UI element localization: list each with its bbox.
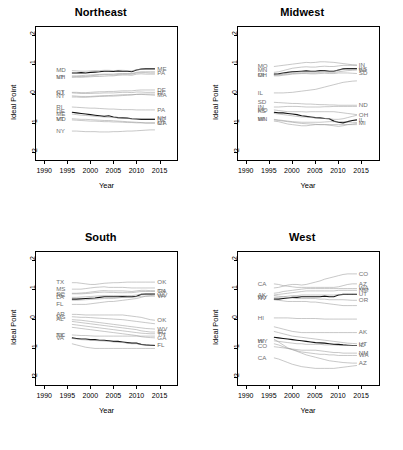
- state-label-left: MN: [258, 116, 268, 122]
- series-line: [273, 110, 356, 115]
- state-label-right: GA: [157, 335, 166, 341]
- series-line: [273, 102, 356, 105]
- series-line: [72, 290, 155, 293]
- state-label-right: PA: [157, 70, 165, 76]
- state-label-left: MO: [258, 107, 268, 113]
- series-line: [273, 81, 356, 93]
- panel-northeast: NortheastIdeal Point210-1-21990199520002…: [0, 0, 202, 225]
- series-line: [72, 287, 155, 289]
- state-label-left: FL: [56, 301, 63, 307]
- series-line: [72, 321, 155, 332]
- state-label-right: OR: [359, 297, 368, 303]
- state-label-right: MA: [157, 120, 166, 126]
- series-line: [72, 282, 155, 284]
- state-label-left: MD: [56, 116, 66, 122]
- series-line: [273, 62, 356, 67]
- state-label-left: NY: [56, 93, 65, 99]
- panel-west: WestIdeal Point210-1-2199019952000200520…: [202, 225, 403, 450]
- state-label-left: MO: [258, 63, 268, 69]
- state-label-left: NV: [258, 295, 267, 301]
- state-label-left: NY: [56, 128, 65, 134]
- state-label-right: CO: [359, 271, 368, 277]
- ideal-point-panel-figure: NortheastIdeal Point210-1-21990199520002…: [0, 0, 403, 450]
- state-label-left: VT: [56, 74, 64, 80]
- state-label-right: OK: [157, 317, 166, 323]
- series-line: [72, 107, 155, 110]
- state-label-left: VA: [56, 335, 64, 341]
- series-lines: [0, 225, 202, 450]
- state-label-left: HI: [258, 315, 264, 321]
- series-lines: [0, 0, 202, 225]
- series-line: [273, 327, 356, 333]
- series-line: [273, 331, 356, 343]
- state-label-left: OH: [258, 72, 267, 78]
- panel-midwest: MidwestIdeal Point210-1-2199019952000200…: [202, 0, 403, 225]
- series-line: [273, 106, 356, 107]
- series-line: [72, 320, 155, 329]
- state-label-right: MI: [359, 120, 366, 126]
- series-line: [273, 358, 356, 369]
- state-label-left: AL: [56, 316, 64, 322]
- state-label-right: MA: [157, 92, 166, 98]
- series-line: [72, 130, 155, 132]
- series-line: [273, 113, 356, 119]
- state-label-right: OK: [157, 279, 166, 285]
- state-label-right: AK: [359, 329, 367, 335]
- state-label-right: AZ: [359, 360, 367, 366]
- series-line: [72, 335, 155, 336]
- state-label-right: ND: [359, 102, 368, 108]
- state-label-right: WI: [359, 67, 367, 73]
- series-lines: [202, 225, 403, 450]
- state-label-left: IL: [258, 90, 263, 96]
- state-label-right: WA: [359, 352, 369, 358]
- panel-south: SouthIdeal Point210-1-219901995200020052…: [0, 225, 202, 450]
- series-lines: [202, 0, 403, 225]
- state-label-right: ID: [359, 342, 365, 348]
- state-label-left: CO: [258, 343, 267, 349]
- state-label-right: WV: [157, 292, 167, 298]
- series-line: [72, 112, 155, 119]
- state-label-left: CA: [258, 281, 267, 287]
- state-label-left: CA: [258, 355, 267, 361]
- series-line: [273, 300, 356, 306]
- state-label-right: FL: [157, 342, 164, 348]
- state-label-right: PA: [157, 107, 165, 113]
- series-line: [273, 318, 356, 319]
